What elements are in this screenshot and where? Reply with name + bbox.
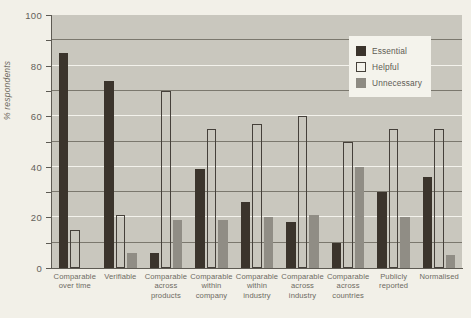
bar-helpful <box>207 129 217 268</box>
y-axis-tick-labels: 020406080100 <box>0 15 48 268</box>
bar-essential <box>286 222 296 268</box>
bar-group <box>280 15 326 268</box>
legend-item-unnecessary: Unnecessary <box>356 75 422 90</box>
y-tick-label-100: 100 <box>25 10 42 21</box>
bar-helpful <box>434 129 444 268</box>
bar-group <box>189 15 235 268</box>
bar-unnecessary <box>264 217 274 268</box>
bar-unnecessary <box>218 220 228 268</box>
y-tick-label-0: 0 <box>36 263 42 274</box>
legend-swatch-unnecessary <box>356 78 366 88</box>
legend-swatch-essential <box>356 46 366 56</box>
bar-chart: % respondents 020406080100 Comparableove… <box>0 0 471 318</box>
bar-group <box>52 15 98 268</box>
bar-helpful <box>70 230 80 268</box>
legend-label-helpful: Helpful <box>372 62 399 72</box>
legend-item-essential: Essential <box>356 43 422 58</box>
y-axis-spine <box>51 15 52 269</box>
x-axis-tick-labels: Comparableover timeVerifiableComparablea… <box>52 272 463 318</box>
y-tick-label-40: 40 <box>31 161 42 172</box>
x-tick-label: Normalised <box>411 272 467 281</box>
bar-unnecessary <box>446 255 456 268</box>
bar-essential <box>332 243 342 268</box>
bar-unnecessary <box>355 167 365 268</box>
bar-group <box>143 15 189 268</box>
y-tick-label-80: 80 <box>31 60 42 71</box>
y-tick-label-60: 60 <box>31 111 42 122</box>
chart-legend: Essential Helpful Unnecessary <box>349 36 431 97</box>
legend-label-unnecessary: Unnecessary <box>372 78 422 88</box>
bar-unnecessary <box>127 253 137 268</box>
bar-helpful <box>161 91 171 268</box>
y-tick-label-20: 20 <box>31 212 42 223</box>
bar-helpful <box>389 129 399 268</box>
x-axis-spine <box>52 268 463 269</box>
legend-swatch-helpful <box>356 62 366 72</box>
bar-essential <box>377 192 387 268</box>
bar-helpful <box>343 142 353 269</box>
legend-item-helpful: Helpful <box>356 59 422 74</box>
legend-label-essential: Essential <box>372 46 407 56</box>
bar-helpful <box>298 116 308 268</box>
bar-essential <box>241 202 251 268</box>
bar-unnecessary <box>309 215 319 268</box>
bar-group <box>98 15 144 268</box>
bar-essential <box>59 53 69 268</box>
bar-unnecessary <box>173 220 183 268</box>
bar-essential <box>150 253 160 268</box>
bar-group <box>234 15 280 268</box>
bar-essential <box>195 169 205 268</box>
bar-unnecessary <box>400 217 410 268</box>
bar-essential <box>423 177 433 268</box>
bar-essential <box>104 81 114 268</box>
bar-helpful <box>252 124 262 268</box>
bar-helpful <box>116 215 126 268</box>
